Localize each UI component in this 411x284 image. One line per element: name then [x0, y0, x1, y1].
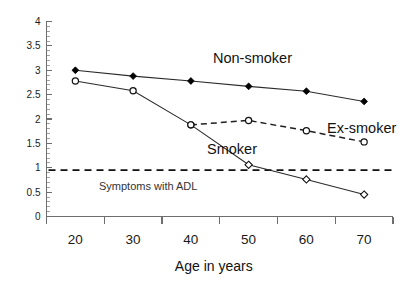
series-line — [75, 81, 364, 195]
y-tick-label: 1 — [35, 162, 41, 173]
x-tick-label: 20 — [68, 232, 83, 247]
series-label-non-smoker: Non-smoker — [213, 50, 292, 66]
y-tick-label: 2 — [35, 114, 41, 125]
data-point — [245, 83, 252, 90]
reference-line-label: Symptoms with ADL — [99, 180, 197, 192]
axis-title-group: Age in years — [175, 258, 253, 274]
x-tick-label: 70 — [357, 232, 372, 247]
chart-container: 00.511.522.533.54 203040506070 Non-smoke… — [0, 0, 411, 284]
series-non-smoker — [72, 67, 368, 105]
data-point — [245, 161, 252, 168]
data-point — [72, 78, 78, 84]
data-point — [361, 191, 368, 198]
data-series-group — [72, 67, 368, 198]
data-point — [130, 88, 136, 94]
x-tick-label: 30 — [126, 232, 141, 247]
data-point — [130, 73, 137, 80]
x-axis: 203040506070 — [47, 217, 394, 247]
y-tick-label: 3 — [35, 65, 41, 76]
series-line — [75, 70, 364, 101]
data-point — [187, 78, 194, 85]
line-chart: 00.511.522.533.54 203040506070 Non-smoke… — [0, 0, 411, 284]
y-tick-label: 1.5 — [27, 138, 41, 149]
data-point — [303, 88, 310, 95]
data-point — [303, 128, 309, 134]
data-point — [361, 139, 367, 145]
y-tick-label: 0 — [35, 211, 41, 222]
x-tick-label: 60 — [299, 232, 314, 247]
y-tick-label: 3.5 — [27, 40, 41, 51]
data-point — [303, 176, 310, 183]
y-tick-label: 4 — [35, 16, 41, 27]
data-point — [361, 98, 368, 105]
x-tick-label: 40 — [183, 232, 198, 247]
data-point — [246, 117, 252, 123]
series-label-ex-smoker: Ex-smoker — [327, 120, 396, 136]
x-axis-title: Age in years — [175, 258, 253, 274]
y-tick-label: 0.5 — [27, 187, 41, 198]
series-label-smoker: Smoker — [207, 141, 257, 157]
y-tick-label: 2.5 — [27, 89, 41, 100]
y-axis: 00.511.522.533.54 — [27, 16, 52, 222]
x-tick-label: 50 — [241, 232, 256, 247]
data-point — [188, 122, 194, 128]
data-point — [72, 67, 79, 74]
